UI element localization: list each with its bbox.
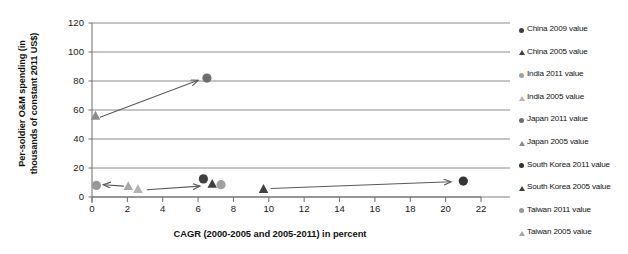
legend-item-label: South Korea 2005 value [527,183,611,192]
series-1 [207,179,217,188]
legend-item-label: India 2005 value [527,92,584,101]
legend-marker-shape [519,141,525,146]
legend-item-label: China 2009 value [527,24,588,33]
point-china-2005-value [207,179,217,188]
point-taiwan-2005-value [123,181,133,190]
legend-item-india-2005-value[interactable]: India 2005 value [516,86,628,109]
legend-marker-shape [519,208,524,213]
legend-item-label: India 2011 value [527,70,583,79]
legend-item-taiwan-2005-value[interactable]: Taiwan 2005 value [516,221,628,244]
series-0 [199,174,208,183]
legend-marker-shape [519,28,524,33]
taiwan-arrow [103,185,123,186]
south-korea-arrow [271,182,451,189]
legend-marker-shape [519,96,525,101]
series-7 [259,184,269,193]
china-arrow [147,186,200,190]
legend-marker-shape [519,50,525,55]
legend-circle-icon [516,64,527,87]
legend-marker-shape [519,73,524,78]
point-south-korea-2011-value [459,176,468,185]
point-india-2005-value [133,184,143,193]
series-3 [133,184,143,193]
legend-circle-icon [516,18,527,41]
legend-triangle-icon [516,177,527,200]
legend-item-label: Japan 2011 value [527,115,588,124]
legend-triangle-icon [516,86,527,109]
series-2 [216,180,225,189]
series-4 [202,74,211,83]
legend-triangle-icon [516,41,527,64]
legend-marker-shape [519,163,524,168]
legend-item-label: Japan 2005 value [527,137,589,146]
legend-item-china-2005-value[interactable]: China 2005 value [516,41,628,64]
legend-item-japan-2011-value[interactable]: Japan 2011 value [516,108,628,131]
legend-item-taiwan-2011-value[interactable]: Taiwan 2011 value [516,199,628,222]
legend-marker-shape [519,231,525,236]
point-india-2011-value [216,180,225,189]
legend-item-label: China 2005 value [527,47,588,56]
japan-arrow [100,80,198,117]
legend-circle-icon [516,199,527,222]
series-6 [459,176,468,185]
legend-item-label: South Korea 2011 value [527,160,610,169]
point-japan-2011-value [202,74,211,83]
legend-marker-shape [519,118,524,123]
legend-circle-icon [516,154,527,177]
legend-marker-shape [519,186,525,191]
chart-container: Per-soldier O&M spending (in thousands o… [0,0,628,254]
legend-triangle-icon [516,222,527,245]
legend-item-label: Taiwan 2011 value [527,205,591,214]
legend-item-south-korea-2011-value[interactable]: South Korea 2011 value [516,154,628,177]
legend-item-japan-2005-value[interactable]: Japan 2005 value [516,131,628,154]
point-taiwan-2011-value [92,181,101,190]
legend-circle-icon [516,109,527,132]
chart-legend: China 2009 valueChina 2005 valueIndia 20… [516,18,628,244]
legend-item-india-2011-value[interactable]: India 2011 value [516,63,628,86]
series-8 [92,181,101,190]
point-south-korea-2005-value [259,184,269,193]
legend-item-label: Taiwan 2005 value [527,228,592,237]
legend-triangle-icon [516,131,527,154]
series-9 [123,181,133,190]
point-china-2009-value [199,174,208,183]
legend-item-south-korea-2005-value[interactable]: South Korea 2005 value [516,176,628,199]
legend-item-china-2009-value[interactable]: China 2009 value [516,18,628,41]
